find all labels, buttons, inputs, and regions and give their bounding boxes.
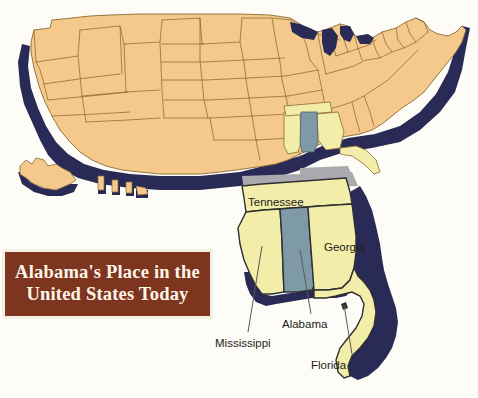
us-map-landmass [31, 14, 466, 174]
alabama-highlight-main [300, 112, 318, 152]
inset-state-georgia [308, 204, 356, 290]
map-graphic [0, 0, 478, 398]
title-banner: Alabama's Place in the United States Tod… [5, 252, 210, 316]
title-line-1: Alabama's Place in the [15, 262, 200, 284]
title-line-2: United States Today [26, 284, 188, 306]
map-figure: the eastern third of through the nation … [0, 0, 478, 398]
